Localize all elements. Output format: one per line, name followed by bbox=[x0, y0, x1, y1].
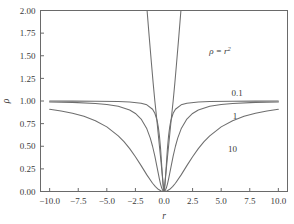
curve-label-10: 10 bbox=[228, 144, 238, 154]
x-tick-label: 0.0 bbox=[158, 196, 170, 206]
x-axis-tick-labels: −10.0−7.5−5.0−2.50.02.55.07.510.0 bbox=[39, 196, 286, 206]
y-axis-title: ρ bbox=[1, 98, 11, 104]
y-tick-label: 1.75 bbox=[20, 28, 36, 38]
x-tick-label: 7.5 bbox=[244, 196, 256, 206]
y-tick-label: 2.00 bbox=[20, 6, 36, 16]
y-tick-label: 1.50 bbox=[20, 51, 36, 61]
x-axis-title: r bbox=[162, 211, 166, 221]
chart-figure: 0.000.250.500.751.001.251.501.752.00 −10… bbox=[0, 0, 294, 224]
curve-label-1: 1 bbox=[233, 111, 238, 121]
y-tick-label: 1.25 bbox=[20, 74, 36, 84]
y-tick-label: 0.25 bbox=[20, 164, 36, 174]
x-tick-label: −7.5 bbox=[70, 196, 87, 206]
y-tick-label: 0.75 bbox=[20, 119, 36, 129]
x-tick-label: −2.5 bbox=[127, 196, 144, 206]
annotation-base: ρ = r bbox=[208, 46, 228, 56]
curve-label-0.1: 0.1 bbox=[232, 88, 243, 98]
y-tick-label: 0.50 bbox=[20, 141, 36, 151]
y-tick-label: 0.00 bbox=[20, 187, 36, 197]
y-axis-tick-labels: 0.000.250.500.751.001.251.501.752.00 bbox=[20, 6, 36, 197]
x-tick-label: 2.5 bbox=[187, 196, 199, 206]
x-tick-label: 10.0 bbox=[270, 196, 286, 206]
y-tick-label: 1.00 bbox=[20, 96, 36, 106]
x-tick-label: −10.0 bbox=[39, 196, 60, 206]
chart-canvas: 0.000.250.500.751.001.251.501.752.00 −10… bbox=[0, 0, 294, 224]
x-tick-label: 5.0 bbox=[216, 196, 228, 206]
x-tick-label: −5.0 bbox=[99, 196, 116, 206]
